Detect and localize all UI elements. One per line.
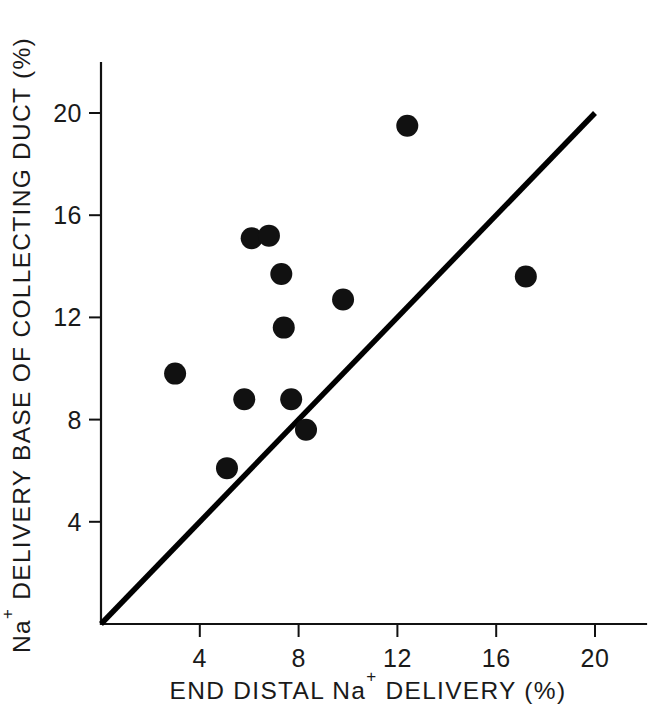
data-point-group — [164, 115, 537, 479]
data-point — [164, 363, 186, 385]
data-point — [270, 263, 292, 285]
data-point — [332, 289, 354, 311]
x-tick-label: 8 — [291, 644, 305, 672]
x-tick-label: 12 — [383, 644, 412, 672]
data-point — [515, 266, 537, 288]
y-axis-ticks: 48121620 — [53, 99, 101, 536]
y-tick-label: 4 — [68, 508, 82, 536]
x-tick-label: 4 — [193, 644, 207, 672]
y-tick-label: 12 — [53, 303, 82, 331]
data-point — [258, 225, 280, 247]
plot-canvas: 48121620 48121620 END DISTAL Na+ DELIVER… — [0, 0, 656, 711]
data-point — [396, 115, 418, 137]
data-point — [216, 457, 238, 479]
x-axis-title: END DISTAL Na+ DELIVERY (%) — [170, 667, 567, 705]
scatter-plot-figure: 48121620 48121620 END DISTAL Na+ DELIVER… — [0, 0, 656, 711]
x-tick-label: 20 — [581, 644, 610, 672]
x-axis-ticks: 48121620 — [193, 624, 610, 672]
y-tick-label: 20 — [53, 99, 82, 127]
x-tick-label: 16 — [482, 644, 511, 672]
data-point — [280, 388, 302, 410]
y-tick-label: 8 — [68, 406, 82, 434]
y-tick-label: 16 — [53, 201, 82, 229]
data-point — [233, 388, 255, 410]
data-point — [295, 419, 317, 441]
y-axis-title: Na+ DELIVERY BASE OF COLLECTING DUCT (%) — [0, 37, 35, 653]
data-point — [273, 317, 295, 339]
